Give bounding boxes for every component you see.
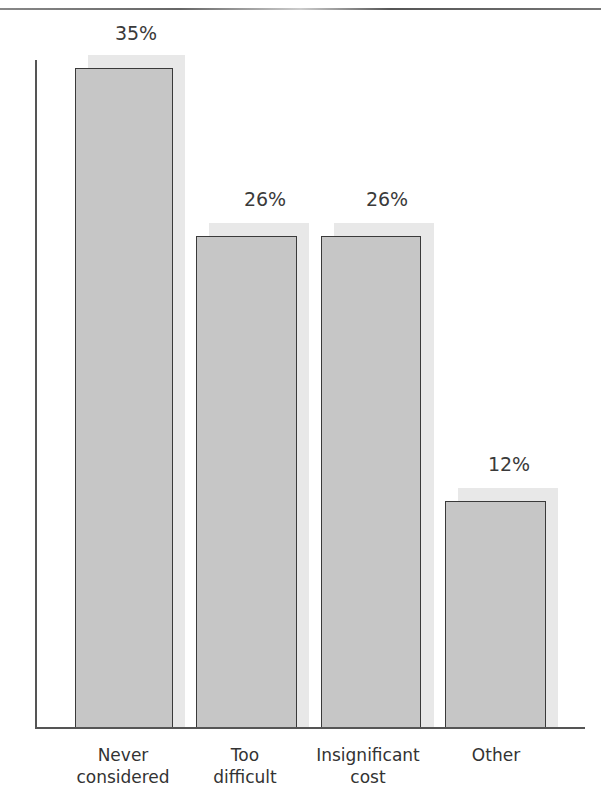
category-label-insignificant-cost: Insignificant cost bbox=[303, 744, 433, 788]
bar-never-considered bbox=[75, 68, 173, 728]
category-label-never-considered: Never considered bbox=[58, 744, 188, 788]
bar-other bbox=[445, 501, 546, 728]
x-axis-line bbox=[35, 727, 585, 729]
category-label-line: Insignificant bbox=[303, 744, 433, 766]
category-label-line: Never bbox=[58, 744, 188, 766]
top-rule-divider bbox=[0, 8, 601, 10]
category-label-line: cost bbox=[303, 766, 433, 788]
category-label-too-difficult: Too difficult bbox=[180, 744, 310, 788]
category-label-other: Other bbox=[431, 744, 561, 766]
bar-insignificant-cost bbox=[321, 236, 421, 728]
bar-too-difficult bbox=[196, 236, 297, 728]
value-label: 35% bbox=[86, 22, 186, 44]
category-label-line: Too bbox=[180, 744, 310, 766]
category-label-line: considered bbox=[58, 766, 188, 788]
category-label-line: Other bbox=[431, 744, 561, 766]
category-label-line: difficult bbox=[180, 766, 310, 788]
value-label: 26% bbox=[215, 188, 315, 210]
y-axis-line bbox=[35, 60, 37, 728]
value-label: 12% bbox=[459, 453, 559, 475]
value-label: 26% bbox=[337, 188, 437, 210]
